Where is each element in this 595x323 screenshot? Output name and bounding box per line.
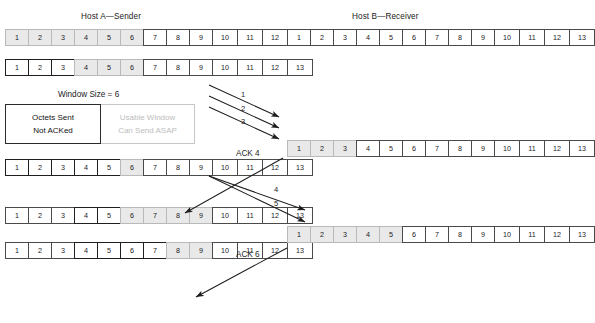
receiver-row-2-octet-11: 11 [519,140,545,157]
ack-6-label: ACK 6 [236,250,260,259]
segment-5-arrow [209,176,305,222]
receiver-row-1-octet-11: 11 [519,29,545,46]
segment-3-label: 3 [241,117,245,126]
receiver-row-2-octet-12: 12 [544,140,570,157]
segment-4-arrow [209,176,305,210]
segment-2-label: 2 [241,104,245,113]
ack-4-label: ACK 4 [236,149,260,158]
receiver-row-3-octet-11: 11 [519,226,545,243]
receiver-row-1-octet-13: 13 [569,29,595,46]
receiver-row-1-octet-12: 12 [544,29,570,46]
receiver-row-2-octet-13: 13 [569,140,595,157]
receiver-row-3-octet-12: 12 [544,226,570,243]
segment-5-label: 5 [274,199,278,208]
segment-4-label: 4 [274,185,278,194]
segment-1-label: 1 [241,90,245,99]
receiver-row-3-octet-13: 13 [569,226,595,243]
